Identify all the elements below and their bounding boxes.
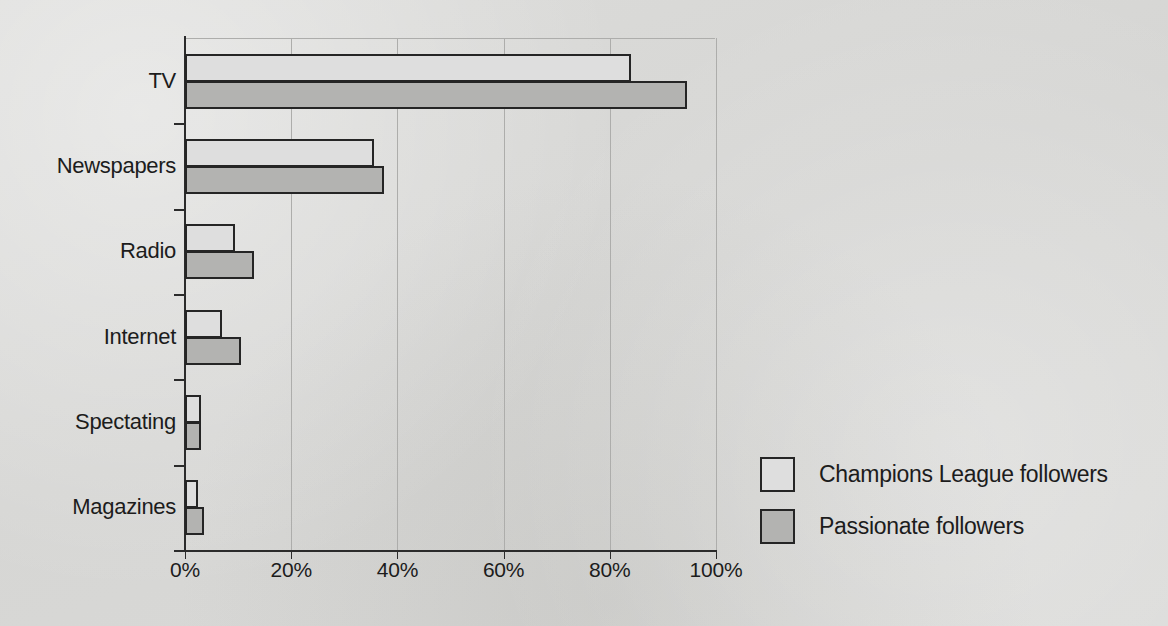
bar-spectating-champions-league-followers [185,395,201,423]
legend-swatch-champions-league-followers [760,457,795,492]
bar-radio-passionate-followers [185,251,254,279]
legend-label: Champions League followers [819,461,1108,488]
category-label-tv: TV [0,68,176,94]
bar-radio-champions-league-followers [185,224,235,252]
gridline [291,38,292,550]
bar-tv-champions-league-followers [185,54,631,82]
category-label-internet: Internet [0,324,176,350]
x-axis-tick-label: 20% [270,558,311,582]
y-axis-tick [174,465,185,467]
plot-area [185,38,715,550]
y-axis-tick [174,294,185,296]
x-axis-line [185,550,716,552]
bar-spectating-passionate-followers [185,422,201,450]
bar-tv-passionate-followers [185,81,687,109]
y-axis-tick [174,123,185,125]
gridline [397,38,398,550]
gridline [504,38,505,550]
x-axis-tick-label: 60% [483,558,524,582]
legend-label: Passionate followers [819,513,1024,540]
gridline [716,38,717,550]
x-axis-tick-label: 80% [589,558,630,582]
plot-top-border [185,38,715,39]
bar-magazines-champions-league-followers [185,480,198,508]
bar-newspapers-champions-league-followers [185,139,374,167]
legend-item: Champions League followers [760,448,1108,500]
bar-internet-champions-league-followers [185,310,222,338]
category-label-newspapers: Newspapers [0,153,176,179]
y-axis-tick [174,550,185,552]
x-axis-tick-label: 100% [690,558,743,582]
chart-legend: Champions League followers Passionate fo… [760,448,1108,552]
category-label-spectating: Spectating [0,409,176,435]
bar-newspapers-passionate-followers [185,166,384,194]
x-axis-tick-label: 0% [170,558,200,582]
category-label-magazines: Magazines [0,494,176,520]
bar-internet-passionate-followers [185,337,241,365]
y-axis-tick [174,209,185,211]
legend-item: Passionate followers [760,500,1108,552]
x-axis-tick-label: 40% [377,558,418,582]
horizontal-bar-chart: 0%20%40%60%80%100% TVNewspapersRadioInte… [0,0,1168,626]
bar-magazines-passionate-followers [185,507,204,535]
category-label-radio: Radio [0,238,176,264]
gridline [610,38,611,550]
y-axis-tick [174,379,185,381]
legend-swatch-passionate-followers [760,509,795,544]
